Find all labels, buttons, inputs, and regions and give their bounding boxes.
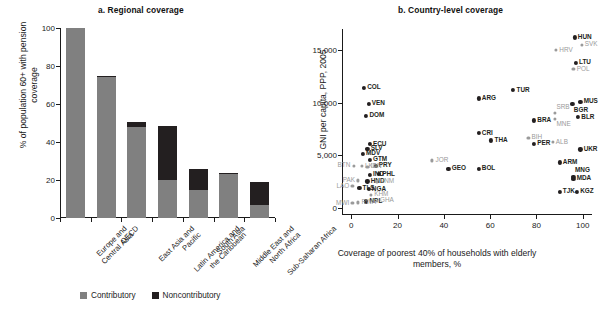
legend-item-contributory: Contributory <box>80 291 136 300</box>
scatter-x-tick-mark <box>583 215 584 219</box>
scatter-point-label: MUS <box>584 98 598 105</box>
scatter-point-label: MNE <box>556 121 570 128</box>
scatter-point-label: RWA <box>361 199 376 206</box>
scatter-point-marker <box>551 140 554 143</box>
scatter-point-label: BOL <box>482 165 496 172</box>
scatter-point-marker <box>361 151 365 155</box>
scatter-point-marker <box>369 193 372 196</box>
scatter-point-label: GEO <box>452 165 466 172</box>
scatter-point-label: VNM <box>380 178 394 185</box>
bar-chart-bar <box>127 122 146 218</box>
bar-chart-y-tick-mark <box>56 28 60 29</box>
bar-chart-x-tick-mark <box>121 218 122 222</box>
scatter-point-label: PER <box>537 140 550 147</box>
scatter-x-tick-mark <box>536 215 537 219</box>
legend-item-noncontributory: Noncontributory <box>152 291 221 300</box>
scatter-point-label: ARG <box>482 95 496 102</box>
scatter-point-marker <box>351 185 354 188</box>
scatter-point-label: BTN <box>338 162 351 169</box>
bar-chart-bar <box>219 173 238 218</box>
scatter-point-marker <box>572 67 575 70</box>
scatter-point-label: IDN <box>371 163 382 170</box>
scatter-point-marker <box>357 201 360 204</box>
scatter-point-marker <box>476 131 480 135</box>
scatter-point-label: KGZ <box>580 188 594 195</box>
scatter-point-label: MNG <box>575 167 590 174</box>
bar-segment-contributory <box>158 180 177 218</box>
bar-chart-y-tick-label: 80 <box>46 62 55 71</box>
scatter-point-label: VEN <box>372 100 385 107</box>
bar-chart-x-tick-mark <box>214 218 215 222</box>
scatter-point-marker <box>578 99 582 103</box>
scatter-point-label: HRV <box>559 47 572 54</box>
bar-chart-y-tick-label: 100 <box>42 24 55 33</box>
noncontributory-swatch-icon <box>152 292 159 299</box>
scatter-y-tick-label: 10,000 <box>313 98 337 107</box>
scatter-point-label: TUR <box>516 87 529 94</box>
scatter-point-marker <box>557 160 561 164</box>
scatter-point-label: SVK <box>585 41 598 48</box>
scatter-point-marker <box>362 86 366 90</box>
scatter-x-tick-label: 40 <box>439 221 448 230</box>
bar-chart-plot-area: 020406080100 Europe andCentral AsiaOECDE… <box>60 28 275 218</box>
scatter-point-marker <box>555 48 558 51</box>
scatter-x-tick-mark <box>490 215 491 219</box>
scatter-point-marker <box>511 88 515 92</box>
scatter-point-marker <box>580 43 583 46</box>
bar-segment-contributory <box>66 28 85 218</box>
scatter-point-label: ALB <box>556 139 568 146</box>
scatter-point-marker <box>575 190 579 194</box>
bar-segment-noncontributory <box>158 126 177 180</box>
bar-segment-noncontributory <box>127 122 146 127</box>
bar-segment-contributory <box>250 205 269 218</box>
bar-chart-bar <box>66 28 85 218</box>
scatter-point-label: MDA <box>577 175 592 182</box>
figure-container: a. Regional coverage b. Country-level co… <box>0 0 616 320</box>
scatter-point-marker <box>352 164 355 167</box>
bar-chart-bar <box>189 169 208 218</box>
scatter-point-marker <box>351 201 354 204</box>
scatter-point-label: ARM <box>563 159 578 166</box>
bar-segment-noncontributory <box>219 173 238 174</box>
scatter-point-marker <box>446 167 450 171</box>
bar-chart-y-tick-mark <box>56 66 60 67</box>
bar-chart-y-tick-mark <box>56 104 60 105</box>
scatter-point-marker <box>476 96 480 100</box>
scatter-point-label: JOR <box>435 157 448 164</box>
scatter-point-marker <box>571 177 575 181</box>
bar-chart-y-tick-label: 20 <box>46 176 55 185</box>
scatter-point-label: GHA <box>380 197 394 204</box>
bar-segment-noncontributory <box>97 76 116 78</box>
scatter-y-tick-mark <box>338 208 342 209</box>
scatter-point-label: CRI <box>482 130 493 137</box>
scatter-point-marker <box>364 114 368 118</box>
scatter-point-marker <box>573 35 577 39</box>
scatter-point-marker <box>532 118 536 122</box>
scatter-y-tick-mark <box>338 103 342 104</box>
scatter-point-label: UKR <box>584 146 598 153</box>
scatter-x-tick-mark <box>351 215 352 219</box>
scatter-y-tick-label: 15,000 <box>313 46 337 55</box>
scatter-x-axis-title: Coverage of poorest 40% of households wi… <box>322 248 552 270</box>
bar-chart-y-axis <box>60 28 61 218</box>
bar-segment-noncontributory <box>189 169 208 190</box>
scatter-point-marker <box>360 165 363 168</box>
bar-chart-x-tick-mark <box>91 218 92 222</box>
scatter-point-label: BLR <box>581 114 594 121</box>
scatter-point-marker <box>489 138 493 142</box>
scatter-y-tick-mark <box>338 50 342 51</box>
scatter-point-marker <box>431 159 434 162</box>
scatter-y-tick-mark <box>338 155 342 156</box>
scatter-point-label: LAO <box>336 183 349 190</box>
scatter-point-marker <box>368 172 372 176</box>
bar-chart-legend: Contributory Noncontributory <box>80 291 220 300</box>
bar-segment-contributory <box>189 190 208 219</box>
scatter-plot-area: 05,00010,00015,000 020406080100 HUNSVKHR… <box>342 29 592 215</box>
scatter-x-axis <box>342 214 592 215</box>
scatter-x-tick-label: 60 <box>486 221 495 230</box>
contributory-swatch-icon <box>80 292 87 299</box>
scatter-point-label: DOM <box>370 112 385 119</box>
scatter-point-marker <box>367 102 371 106</box>
bar-chart-y-axis-title: % of population 60+ with pension coverag… <box>18 10 40 160</box>
bar-chart-bar <box>97 76 116 219</box>
